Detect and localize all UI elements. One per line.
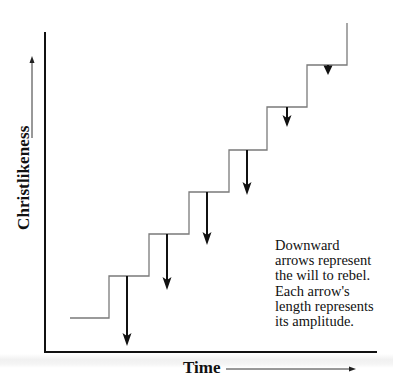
note-line: the will to rebel. bbox=[275, 268, 393, 283]
note-line: length represents bbox=[275, 299, 393, 314]
y-label-arrowhead-icon bbox=[30, 56, 35, 63]
rebellion-arrow-3 bbox=[203, 192, 212, 245]
note-line: Each arrow's bbox=[275, 284, 393, 299]
note-line: arrows represent bbox=[275, 253, 393, 268]
arrowhead-icon bbox=[324, 66, 333, 76]
explanatory-note: Downward arrows represent the will to re… bbox=[275, 238, 393, 329]
note-line: its amplitude. bbox=[275, 314, 393, 329]
x-label-arrowhead-icon bbox=[349, 367, 356, 372]
rebellion-arrow-5 bbox=[283, 107, 292, 127]
rebellion-arrow-1 bbox=[123, 276, 132, 346]
staircase-diagram bbox=[0, 0, 393, 389]
rebellion-arrow-2 bbox=[163, 234, 172, 290]
x-axis-label: Time bbox=[183, 358, 220, 378]
y-axis-label: Christlikeness bbox=[14, 126, 34, 230]
note-line: Downward bbox=[275, 238, 393, 253]
rebellion-arrow-6 bbox=[324, 65, 333, 75]
rebellion-arrow-4 bbox=[243, 150, 252, 195]
